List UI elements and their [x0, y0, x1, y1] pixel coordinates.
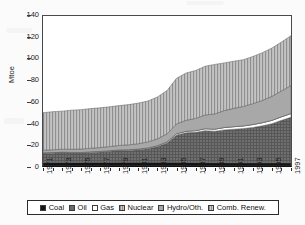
x-axis-tick: [110, 168, 111, 171]
x-axis-tick: [43, 168, 44, 171]
x-axis-tick-label: 1989: [218, 157, 226, 174]
legend-item-comb-renew[interactable]: Comb. Renew.: [208, 204, 266, 212]
x-axis-tick: [262, 168, 263, 171]
x-axis-tick-label: 1987: [199, 157, 207, 174]
x-axis-tick: [234, 168, 235, 171]
legend-label: Gas: [100, 204, 114, 212]
legend-item-nuclear[interactable]: Nuclear: [119, 204, 153, 212]
y-axis-tick: [27, 167, 31, 168]
x-axis-tick-label: 1983: [160, 157, 168, 174]
x-axis-tick: [253, 168, 254, 171]
x-axis-tick-label: 1993: [256, 157, 264, 174]
legend-item-coal[interactable]: Coal: [40, 204, 64, 212]
y-axis-tick: [27, 145, 31, 146]
x-axis-tick: [281, 168, 282, 171]
x-axis-tick: [205, 168, 206, 171]
x-axis-tick: [196, 168, 197, 171]
y-axis-tick: [27, 37, 31, 38]
x-axis-tick: [291, 168, 292, 171]
y-axis-tick: [27, 80, 31, 81]
x-axis-tick: [177, 168, 178, 171]
y-axis-tick: [27, 15, 31, 16]
gas-swatch: [92, 205, 98, 211]
x-axis-tick-label: 1971: [46, 157, 54, 174]
x-axis: 1971197319751977197919811983198519871989…: [42, 168, 293, 202]
scan-artifact: [186, 1, 224, 5]
legend-label: Coal: [49, 204, 64, 212]
x-axis-tick: [53, 168, 54, 171]
x-axis-tick: [72, 168, 73, 171]
x-axis-tick: [215, 168, 216, 171]
x-axis-tick-label: 1997: [294, 157, 302, 174]
hydro-swatch: [158, 205, 164, 211]
legend-item-gas[interactable]: Gas: [92, 204, 114, 212]
nuclear-swatch: [119, 205, 125, 211]
x-axis-tick: [148, 168, 149, 171]
x-axis-tick: [167, 168, 168, 171]
x-axis-tick-label: 1973: [65, 157, 73, 174]
x-axis-tick-label: 1985: [180, 157, 188, 174]
coal-swatch: [40, 205, 46, 211]
x-axis-tick: [186, 168, 187, 171]
x-axis-tick-label: 1981: [141, 157, 149, 174]
x-axis-tick: [224, 168, 225, 171]
x-axis-tick: [272, 168, 273, 171]
legend-label: Comb. Renew.: [217, 204, 266, 212]
legend-item-oil[interactable]: Oil: [69, 204, 87, 212]
x-axis-tick-label: 1995: [275, 157, 283, 174]
x-axis-tick: [129, 168, 130, 171]
x-axis-tick: [243, 168, 244, 171]
legend-item-hydro-oth[interactable]: Hydro/Oth.: [158, 204, 203, 212]
legend-label: Oil: [78, 204, 87, 212]
x-axis-tick-label: 1977: [103, 157, 111, 174]
oil-swatch: [69, 205, 75, 211]
comb-renew-swatch: [208, 205, 214, 211]
x-axis-tick-label: 1979: [122, 157, 130, 174]
y-axis-label: Mtoe: [7, 55, 16, 95]
y-axis-tick: [27, 58, 31, 59]
x-axis-tick: [91, 168, 92, 171]
plot-area: [42, 15, 292, 167]
y-axis-tick: [27, 102, 31, 103]
x-axis-tick: [81, 168, 82, 171]
y-axis-tick: [27, 124, 31, 125]
chart-figure: 020406080100120140 Mtoe: [0, 0, 305, 225]
legend-label: Nuclear: [128, 204, 154, 212]
stacked-area-svg: [43, 16, 291, 166]
chart-legend: CoalOilGasNuclearHydro/Oth.Comb. Renew.: [27, 200, 279, 215]
x-axis-tick-label: 1975: [84, 157, 92, 174]
x-axis-tick-label: 1991: [237, 157, 245, 174]
legend-label: Hydro/Oth.: [167, 204, 203, 212]
y-axis: 020406080100120140: [14, 0, 39, 167]
x-axis-tick: [62, 168, 63, 171]
